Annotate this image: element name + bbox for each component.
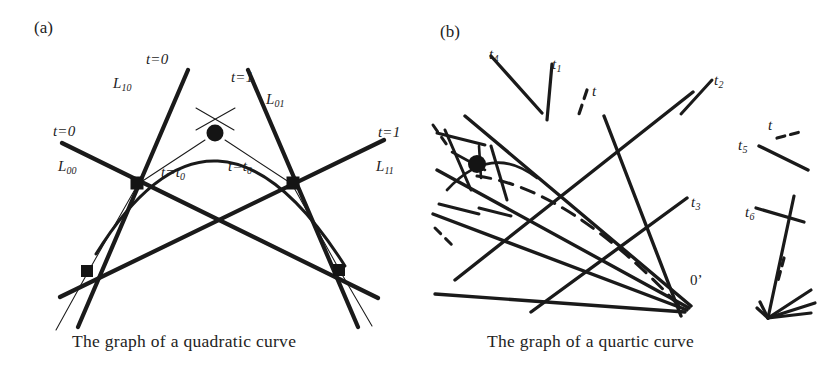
label-b-t5: t5 — [738, 138, 747, 155]
label-a-t1-right: t=1 — [378, 125, 400, 140]
tick-3 — [491, 146, 507, 200]
label-a-L01: L01 — [266, 92, 285, 109]
segment-t5 — [759, 146, 808, 170]
node-square-bottom-left — [81, 265, 93, 277]
label-b-t2: t2 — [714, 73, 723, 90]
label-a-L10-base: L — [113, 75, 122, 91]
label-a-t-t0-right-sub: 0 — [247, 165, 252, 176]
label-b-t6-sub: 6 — [749, 211, 754, 222]
label-b-t5-sub: 5 — [742, 144, 747, 155]
segment-t6-bar — [756, 208, 804, 222]
tick-5 — [439, 204, 479, 214]
dash-tick-1 — [435, 228, 453, 246]
label-a-t-t0-right-base: t=t — [228, 158, 247, 174]
panel-b-caption: The graph of a quartic curve — [487, 331, 694, 352]
label-b-t3-sub: 3 — [695, 201, 700, 212]
label-a-L11-sub: 11 — [385, 165, 394, 176]
label-a-t-t0-right: t=t0 — [228, 159, 252, 176]
label-b-origin: 0’ — [690, 272, 703, 289]
label-b-t2-sub: 2 — [718, 79, 723, 90]
label-a-t-t0-left-base: t=t — [161, 164, 180, 180]
label-b-t6: t6 — [745, 205, 754, 222]
node-square-right — [287, 177, 300, 190]
label-a-L11: L11 — [376, 159, 394, 176]
label-a-t1-top: t=1 — [231, 70, 253, 85]
label-a-L10-sub: 10 — [122, 82, 132, 93]
label-b-t3: t3 — [691, 195, 700, 212]
panel-b-graphic — [419, 0, 838, 367]
label-b-t-dashed-right: t — [768, 118, 772, 133]
label-a-t-t0-left: t=t0 — [161, 165, 185, 182]
right-pencil — [757, 196, 815, 318]
thin-ray-bl-ext — [56, 272, 88, 330]
label-a-L00-sub: 00 — [67, 165, 77, 176]
label-a-L01-sub: 01 — [275, 98, 285, 109]
label-a-L10: L10 — [113, 76, 132, 93]
node-square-left — [131, 177, 144, 190]
label-a-L11-base: L — [376, 158, 385, 174]
panel-a-tag: (a) — [34, 18, 53, 38]
node-circle-apex — [207, 125, 224, 142]
label-a-L00-base: L — [58, 158, 67, 174]
label-a-L00: L00 — [58, 159, 77, 176]
segment-t-dashed-upper — [577, 90, 587, 120]
segment-t-dashed-right — [777, 131, 804, 138]
label-b-t4-sub: 4 — [493, 53, 498, 64]
node-square-bottom-right — [333, 264, 345, 276]
label-a-t-t0-left-sub: 0 — [180, 171, 185, 182]
label-b-t1: t1 — [552, 57, 561, 74]
node-circle-quartic — [468, 155, 486, 173]
line-q5 — [604, 116, 681, 316]
label-b-t-dashed-upper: t — [592, 84, 596, 99]
label-b-t4: t4 — [489, 47, 498, 64]
panel-b-tag: (b) — [440, 22, 460, 42]
segment-t4 — [491, 56, 542, 113]
label-a-t0-top: t=0 — [146, 52, 168, 67]
panel-a-graphic — [0, 0, 419, 367]
label-a-L01-base: L — [266, 91, 275, 107]
figure-root: (a) t=0 t=1 L10 L01 t=0 t=1 L00 L11 t=t0… — [0, 0, 838, 367]
label-a-t0-left: t=0 — [53, 124, 75, 139]
label-b-t1-sub: 1 — [556, 63, 561, 74]
panel-a-caption: The graph of a quadratic curve — [72, 331, 296, 352]
